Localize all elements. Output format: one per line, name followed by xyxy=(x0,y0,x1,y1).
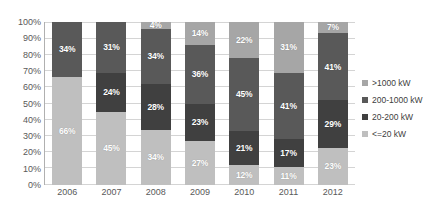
bar-column[interactable]: 22%45%21%12% xyxy=(229,22,259,185)
bar-column[interactable]: 4%34%28%34% xyxy=(141,22,171,185)
x-axis-tick-label: 2011 xyxy=(274,187,304,207)
bar-segment-label: 41% xyxy=(325,63,341,72)
bar-column[interactable]: 34%66% xyxy=(52,22,82,185)
y-axis-tick-label: 40% xyxy=(3,115,41,125)
bar-segment[interactable]: 34% xyxy=(141,29,171,84)
bar-segment-label: 45% xyxy=(236,90,252,99)
y-axis-tick-label: 100% xyxy=(3,17,41,27)
y-axis-tick-label: 20% xyxy=(3,147,41,157)
bar-segment-label: 23% xyxy=(325,162,341,171)
bar-segment[interactable]: 24% xyxy=(96,73,126,112)
legend-label: <=20 kW xyxy=(372,129,406,139)
y-axis-tick-label: 70% xyxy=(3,66,41,76)
legend-swatch-icon xyxy=(362,80,368,86)
bar-segment-label: 34% xyxy=(147,52,163,61)
x-axis-tick-label: 2009 xyxy=(185,187,215,207)
bar-segment[interactable]: 41% xyxy=(274,73,304,140)
bar-segment[interactable]: 21% xyxy=(229,131,259,165)
bar-segment[interactable]: 23% xyxy=(185,104,215,141)
bar-segment-label: 23% xyxy=(192,118,208,127)
legend-label: 20-200 kW xyxy=(372,112,413,122)
y-axis-tick-label: 50% xyxy=(3,99,41,109)
stacked-bar-chart: 0%10%20%30%40%50%60%70%80%90%100% 34%66%… xyxy=(0,0,439,216)
legend-label: 200-1000 kW xyxy=(372,95,423,105)
bar-segment-label: 11% xyxy=(281,172,297,181)
bar-segment[interactable]: 41% xyxy=(318,33,348,100)
bar-segment-label: 28% xyxy=(147,103,163,112)
bar-segment-label: 27% xyxy=(192,159,208,168)
bar-column[interactable]: 31%24%45% xyxy=(96,22,126,185)
bar-group: 34%66%31%24%45%4%34%28%34%14%36%23%27%22… xyxy=(45,22,355,185)
bar-segment[interactable]: 34% xyxy=(141,130,171,185)
bar-segment-label: 45% xyxy=(103,144,119,153)
bar-segment[interactable]: 17% xyxy=(274,139,304,167)
bar-segment[interactable]: 12% xyxy=(229,165,259,185)
bar-segment-label: 31% xyxy=(103,43,119,52)
bar-segment-label: 31% xyxy=(280,43,296,52)
legend-swatch-icon xyxy=(362,97,368,103)
y-axis-tick-label: 80% xyxy=(3,50,41,60)
bar-segment[interactable]: 28% xyxy=(141,84,171,130)
x-axis-tick-label: 2007 xyxy=(96,187,126,207)
bar-segment[interactable]: 29% xyxy=(318,100,348,147)
bar-segment-label: 41% xyxy=(280,102,296,111)
bar-segment[interactable]: 66% xyxy=(52,77,82,185)
legend-item[interactable]: 20-200 kW xyxy=(362,112,438,122)
bar-segment[interactable]: 31% xyxy=(96,22,126,73)
bar-segment-label: 66% xyxy=(59,127,75,136)
bar-segment[interactable]: 7% xyxy=(318,22,348,33)
legend-label: >1000 kW xyxy=(372,78,411,88)
bar-segment-label: 17% xyxy=(280,149,296,158)
bar-segment-label: 14% xyxy=(192,29,208,38)
x-axis: 2006200720082009201020112012 xyxy=(45,187,355,207)
bar-segment[interactable]: 14% xyxy=(185,22,215,45)
y-axis-tick-label: 10% xyxy=(3,164,41,174)
legend-swatch-icon xyxy=(362,114,368,120)
bar-segment[interactable]: 23% xyxy=(318,148,348,185)
bar-segment[interactable]: 34% xyxy=(52,22,82,77)
bar-column[interactable]: 14%36%23%27% xyxy=(185,22,215,185)
legend-swatch-icon xyxy=(362,131,368,137)
legend-item[interactable]: 200-1000 kW xyxy=(362,95,438,105)
bar-segment[interactable]: 22% xyxy=(229,22,259,58)
bar-column[interactable]: 31%41%17%11% xyxy=(274,22,304,185)
y-axis-tick-label: 90% xyxy=(3,33,41,43)
x-axis-tick-label: 2012 xyxy=(318,187,348,207)
bar-segment-label: 22% xyxy=(236,36,252,45)
bar-segment[interactable]: 36% xyxy=(185,45,215,104)
chart-legend: >1000 kW200-1000 kW20-200 kW<=20 kW xyxy=(362,78,438,139)
bar-segment[interactable]: 45% xyxy=(229,58,259,131)
bar-segment-label: 24% xyxy=(103,88,119,97)
y-axis-tick-label: 0% xyxy=(3,180,41,190)
bar-segment[interactable]: 27% xyxy=(185,141,215,185)
bar-segment[interactable]: 45% xyxy=(96,112,126,185)
y-axis-tick-label: 30% xyxy=(3,131,41,141)
x-axis-tick-label: 2010 xyxy=(229,187,259,207)
legend-item[interactable]: <=20 kW xyxy=(362,129,438,139)
x-axis-tick-label: 2006 xyxy=(52,187,82,207)
y-axis: 0%10%20%30%40%50%60%70%80%90%100% xyxy=(0,22,41,185)
bar-segment[interactable]: 11% xyxy=(274,167,304,185)
bar-segment-label: 7% xyxy=(327,23,339,32)
y-axis-tick-label: 60% xyxy=(3,82,41,92)
x-axis-tick-label: 2008 xyxy=(141,187,171,207)
bar-segment-label: 34% xyxy=(59,45,75,54)
bar-segment-label: 12% xyxy=(236,171,252,180)
bar-segment[interactable]: 31% xyxy=(274,22,304,73)
bar-segment-label: 29% xyxy=(325,120,341,129)
bar-segment-label: 34% xyxy=(147,153,163,162)
bar-segment-label: 21% xyxy=(236,144,252,153)
bar-column[interactable]: 7%41%29%23% xyxy=(318,22,348,185)
bar-segment-label: 36% xyxy=(192,70,208,79)
legend-item[interactable]: >1000 kW xyxy=(362,78,438,88)
